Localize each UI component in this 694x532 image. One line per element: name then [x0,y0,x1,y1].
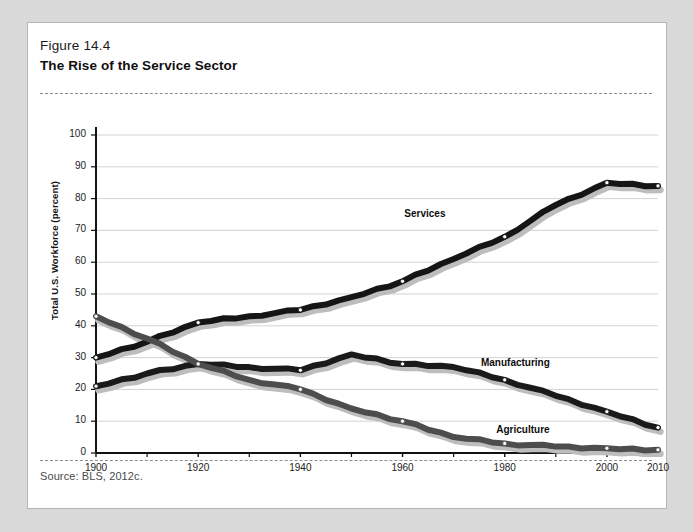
figure-title: The Rise of the Service Sector [40,56,640,75]
series-markers [94,181,660,452]
y-tick-label: 70 [54,223,86,234]
figure-header: Figure 14.4 The Rise of the Service Sect… [40,37,640,75]
y-tick-label: 100 [54,128,86,139]
x-tick-label: 1900 [71,462,121,473]
x-tick-label: 1940 [275,462,325,473]
y-tick-label: 20 [54,382,86,393]
chart-plot-area: Total U.S. Workforce (percent) 010203040… [28,97,666,457]
x-tick-label: 1980 [480,462,530,473]
x-tick-label: 1960 [378,462,428,473]
figure-number: Figure 14.4 [40,37,640,55]
bottom-divider [40,460,652,461]
line-chart [28,97,666,457]
series-label-manufacturing: Manufacturing [481,357,550,368]
gridlines [96,135,658,421]
y-tick-label: 60 [54,255,86,266]
y-tick-label: 30 [54,351,86,362]
y-tick-label: 90 [54,160,86,171]
y-tick-label: 10 [54,414,86,425]
x-tick-label: 2010 [633,462,683,473]
series-label-services: Services [404,208,445,219]
y-tick-label: 80 [54,192,86,203]
series-lines [96,183,658,451]
y-tick-label: 50 [54,287,86,298]
figure-panel: Figure 14.4 The Rise of the Service Sect… [27,22,667,509]
x-tick-label: 1920 [173,462,223,473]
y-tick-label: 0 [54,446,86,457]
y-tick-label: 40 [54,319,86,330]
x-tick-label: 2000 [582,462,632,473]
series-label-agriculture: Agriculture [496,424,549,435]
top-divider [40,93,652,94]
